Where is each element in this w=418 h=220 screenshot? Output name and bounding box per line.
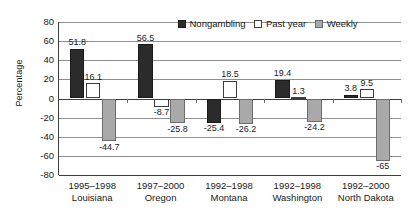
x-axis-category-label: 1995–1998Louisiana — [54, 180, 130, 203]
bar-value-label: 19.4 — [265, 69, 299, 78]
bar-value-label: -26.2 — [229, 125, 263, 134]
bar-value-label: 56.5 — [129, 34, 163, 43]
x-axis-tick-mark — [333, 99, 334, 103]
y-axis-tick-label: 60 — [22, 36, 54, 46]
bar-past-year — [86, 83, 101, 98]
y-axis-tick-label: -40 — [22, 132, 54, 142]
x-axis-tick-mark — [264, 99, 265, 103]
bar-weekly — [239, 99, 254, 124]
legend-label: Nongambling — [190, 19, 246, 29]
category-period: 1995–1998 — [54, 180, 130, 192]
legend-swatch-nongambling-icon — [178, 20, 186, 28]
legend-item-nongambling: Nongambling — [178, 19, 245, 29]
bar-nongambling — [344, 95, 359, 99]
bar-nongambling — [207, 99, 222, 123]
y-axis-tick-label: 20 — [22, 75, 54, 85]
bar-weekly — [170, 99, 185, 124]
gridline — [59, 175, 401, 176]
x-axis-category-label: 1992–2000North Dakota — [328, 180, 404, 203]
gridline — [59, 41, 401, 42]
x-axis-category-label: 1992–1998Montana — [191, 180, 267, 203]
bar-weekly — [376, 99, 391, 161]
bar-value-label: 18.5 — [213, 70, 247, 79]
legend-label: Weekly — [327, 19, 358, 29]
legend-label: Past year — [266, 19, 306, 29]
legend-swatch-pastyear-icon — [254, 20, 262, 28]
bar-value-label: -25.8 — [161, 125, 195, 134]
legend-item-weekly: Weekly — [315, 19, 357, 29]
bar-value-label: 9.5 — [350, 79, 384, 88]
x-axis-tick-mark — [196, 99, 197, 103]
x-axis-category-label: 1997–2000Oregon — [122, 180, 198, 203]
y-axis-tick-label: 80 — [22, 17, 54, 27]
x-axis-category-labels: 1995–1998Louisiana1997–2000Oregon1992–19… — [58, 180, 400, 216]
x-axis-category-label: 1992–1998Washington — [259, 180, 335, 203]
bar-past-year — [154, 99, 169, 107]
y-axis-tick-label: -80 — [22, 170, 54, 180]
category-place: Montana — [191, 192, 267, 204]
legend-item-pastyear: Past year — [254, 19, 306, 29]
y-axis-tick-label: 40 — [22, 56, 54, 66]
category-period: 1997–2000 — [122, 180, 198, 192]
y-axis-tick-label: 0 — [22, 94, 54, 104]
chart-legend: NongamblingPast yearWeekly — [178, 19, 358, 29]
bar-value-label: 51.8 — [60, 38, 94, 47]
gridline — [59, 156, 401, 157]
category-period: 1992–2000 — [328, 180, 404, 192]
legend-swatch-weekly-icon — [315, 20, 323, 28]
bar-value-label: -65 — [366, 162, 400, 171]
bar-weekly — [102, 99, 117, 142]
bar-chart: Percentage 806040200-20-40-60-80 51.816.… — [0, 0, 418, 220]
x-axis-tick-mark — [127, 99, 128, 103]
category-place: North Dakota — [328, 192, 404, 204]
bar-value-label: -25.4 — [197, 124, 231, 133]
bar-nongambling — [138, 44, 153, 98]
y-axis-tick-label: -20 — [22, 113, 54, 123]
category-period: 1992–1998 — [259, 180, 335, 192]
gridline — [59, 60, 401, 61]
bar-value-label: 16.1 — [76, 73, 110, 82]
bar-value-label: -24.2 — [297, 123, 331, 132]
bar-past-year — [291, 97, 306, 99]
category-period: 1992–1998 — [191, 180, 267, 192]
bar-value-label: 1.3 — [281, 87, 315, 96]
x-axis-tick-mark — [401, 99, 402, 103]
category-place: Louisiana — [54, 192, 130, 204]
bar-value-label: -44.7 — [92, 143, 126, 152]
plot-area: 51.816.1-44.756.5-8.7-25.8-25.418.5-26.2… — [58, 22, 400, 175]
bar-past-year — [360, 89, 375, 98]
category-place: Oregon — [122, 192, 198, 204]
bar-past-year — [223, 81, 238, 99]
bar-weekly — [307, 99, 322, 122]
y-axis-tick-label: -60 — [22, 151, 54, 161]
category-place: Washington — [259, 192, 335, 204]
y-axis-tick-labels: 806040200-20-40-60-80 — [22, 22, 54, 175]
